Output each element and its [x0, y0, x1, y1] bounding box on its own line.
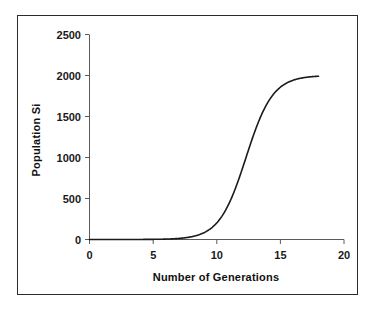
x-tick-label-15: 15 — [274, 249, 286, 261]
y-tick-label-500: 500 — [63, 193, 81, 205]
y-tick-label-1500: 1500 — [57, 111, 81, 123]
y-tick-label-2000: 2000 — [57, 70, 81, 82]
population-growth-curve — [90, 76, 319, 239]
x-axis-title: Number of Generations — [153, 271, 279, 283]
x-tick-label-10: 10 — [211, 249, 223, 261]
x-tick-label-20: 20 — [338, 249, 350, 261]
y-tick-label-1000: 1000 — [57, 152, 81, 164]
plot-area: 0 500 1000 1500 2000 2500 0 5 10 15 20 P… — [0, 0, 377, 317]
y-tick-label-0: 0 — [75, 234, 81, 246]
chart-figure: 0 500 1000 1500 2000 2500 0 5 10 15 20 P… — [0, 0, 377, 317]
y-tick-label-2500: 2500 — [57, 29, 81, 41]
x-tick-label-5: 5 — [150, 249, 156, 261]
x-tick-label-0: 0 — [86, 249, 92, 261]
y-axis-title: Population Si — [30, 104, 42, 177]
